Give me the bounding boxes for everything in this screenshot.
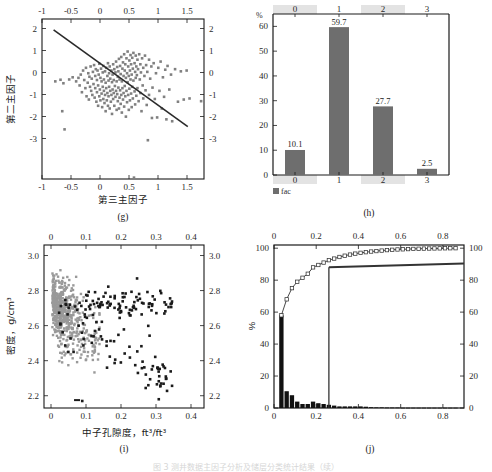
panel-j-ytick-label-right: 0 <box>469 403 474 413</box>
panel-j-cumulative-marker <box>433 247 436 250</box>
panel-h-ytick-label: 40 <box>259 71 269 81</box>
panel-j-bar <box>395 408 399 409</box>
panel-j-ytick-label: 20 <box>260 371 270 381</box>
panel-j-cumulative-marker <box>427 247 430 250</box>
panel-g-bot-tick-3: 0.5 <box>123 182 135 192</box>
panel-i-bot-tick-1: 0.1 <box>80 411 91 421</box>
panel-j-cumulative-marker <box>348 253 351 256</box>
panel-j-cumulative-marker <box>311 266 314 269</box>
panel-h-bar-value-label: 10.1 <box>288 139 303 149</box>
panel-j-bar <box>411 408 415 409</box>
panel-g-scatter: -1 -0.5 0 0.5 1 1.5 -1 -0.5 0 0.5 1 1.5 <box>0 0 246 225</box>
panel-g-left-tick-0: 2 <box>33 24 38 34</box>
panel-j-ytick-label-right: 60 <box>469 307 479 317</box>
panel-j-bot-tick-4: 0.8 <box>437 411 449 421</box>
panel-j-ytick-label-right: 40 <box>469 339 479 349</box>
panel-i-ytick-label: 2.2 <box>28 391 39 401</box>
panel-j-cumulative-marker <box>296 280 299 283</box>
panel-g-left-tick-2: 0 <box>33 68 38 78</box>
panel-j-top-tick-0: 0 <box>272 231 277 241</box>
panel-i-svg: 0 0.1 0.2 0.3 0.4 0 0.1 0.2 0.3 0.4 2.22… <box>0 225 246 460</box>
panel-j-cumulative-marker <box>396 248 399 251</box>
panel-g-top-tick-5: 1.5 <box>181 6 193 16</box>
panel-h-top-tick-0: 0 <box>293 4 298 14</box>
panel-h-legend-swatch <box>273 188 279 194</box>
panel-j-ytick-label: 80 <box>260 275 270 285</box>
panel-j-bar <box>380 407 384 408</box>
panel-g-right-tick-5: -3 <box>209 134 217 144</box>
panel-j-cumulative-marker <box>375 249 378 252</box>
panel-j-bar <box>390 408 394 409</box>
panel-h-bar <box>329 27 349 175</box>
panel-g-bot-tick-2: 0 <box>98 182 103 192</box>
panel-i-ytick-label-right: 2.8 <box>209 286 221 296</box>
panel-j-cumulative-marker <box>417 247 420 250</box>
panel-i-bot-tick-2: 0.2 <box>115 411 126 421</box>
panel-i-top-tick-2: 0.2 <box>115 232 126 242</box>
panel-h-ytick-label: 0 <box>264 170 269 180</box>
panel-h-bar-value-label: 27.7 <box>376 96 391 106</box>
panel-i-label: (i) <box>120 444 129 455</box>
panel-j-bot-tick-0: 0 <box>272 411 277 421</box>
panel-j-plot-area <box>274 245 464 408</box>
panel-g-xaxis-title: 第三主因子 <box>98 194 148 205</box>
panel-i-top-tick-4: 0.4 <box>185 232 197 242</box>
panel-j-cumulative-marker <box>306 272 309 275</box>
panel-j-yaxis-title: % <box>246 321 257 330</box>
panel-j-bar <box>443 408 447 409</box>
panel-j-bar <box>295 402 299 408</box>
panel-j-cumulative-marker <box>391 248 394 251</box>
panel-j-bar <box>453 408 457 409</box>
panel-i-top-tick-1: 0.1 <box>80 232 91 242</box>
panel-j-cumulative-marker <box>369 250 372 253</box>
panel-j-bar <box>285 391 289 408</box>
panel-i-bot-tick-0: 0 <box>49 411 54 421</box>
panel-j-cumulative-marker <box>422 247 425 250</box>
panel-h-top-tick-2: 2 <box>381 4 386 14</box>
panel-h-barchart: % 0 1 2 3 0102030405060 10.159.727 <box>246 0 492 225</box>
panel-j-cumulative-marker <box>327 258 330 261</box>
panel-j-bar <box>416 408 420 409</box>
panel-g-bot-tick-0: -1 <box>38 182 46 192</box>
panel-h-yaxis-unit: % <box>256 11 263 20</box>
panel-j-bar <box>279 315 283 408</box>
panel-j-bar <box>321 404 325 408</box>
panel-j-bar <box>358 406 362 408</box>
panel-j-top-tick-4: 0.8 <box>437 231 449 241</box>
panel-j-cumulative-marker <box>438 247 441 250</box>
panel-g-bot-tick-4: 1 <box>156 182 161 192</box>
panel-h-ytick-label: 10 <box>259 145 269 155</box>
panel-j-cumulative-marker <box>354 252 357 255</box>
panel-g-label: (g) <box>117 212 128 223</box>
panel-h-ytick-label: 50 <box>259 46 269 56</box>
panel-g-left-tick-1: 1 <box>33 46 38 56</box>
panel-j-bar <box>385 408 389 409</box>
panel-j-bar <box>432 408 436 409</box>
panel-g-top-tick-4: 1 <box>156 6 161 16</box>
panel-j-cumulative-marker <box>380 249 383 252</box>
panel-j-bar <box>290 395 294 408</box>
panel-j-bar <box>348 406 352 408</box>
panel-i-top-tick-0: 0 <box>49 232 54 242</box>
panel-h-bot-tick-0: 0 <box>293 175 298 185</box>
panel-i-ytick-label-right: 2.4 <box>209 356 221 366</box>
panel-j-cumulative-marker <box>290 286 293 289</box>
panel-i-ytick-label: 2.8 <box>28 286 40 296</box>
panel-g-right-tick-3: -1 <box>209 90 217 100</box>
panel-j-bar <box>332 406 336 408</box>
panel-j-svg: 0 0.2 0.4 0.6 0.8 0 0.2 0.4 0.6 0.8 0020… <box>246 225 492 460</box>
panel-g-svg: -1 -0.5 0 0.5 1 1.5 -1 -0.5 0 0.5 1 1.5 <box>0 0 246 225</box>
panel-g-right-tick-0: 2 <box>209 24 214 34</box>
panel-j-bar <box>343 406 347 408</box>
panel-j-ytick-label: 0 <box>265 403 270 413</box>
panel-j-pareto: 0 0.2 0.4 0.6 0.8 0 0.2 0.4 0.6 0.8 0020… <box>246 225 492 460</box>
panel-j-top-tick-2: 0.4 <box>353 231 365 241</box>
panel-j-cumulative-marker <box>343 254 346 257</box>
panel-g-left-tick-5: -3 <box>30 134 38 144</box>
panel-j-cumulative-marker <box>443 247 446 250</box>
panel-j-cumulative-marker <box>401 248 404 251</box>
panel-h-bot-tick-2: 2 <box>381 175 386 185</box>
panel-g-top-tick-2: 0 <box>98 6 103 16</box>
panel-j-cumulative-marker <box>454 247 457 250</box>
